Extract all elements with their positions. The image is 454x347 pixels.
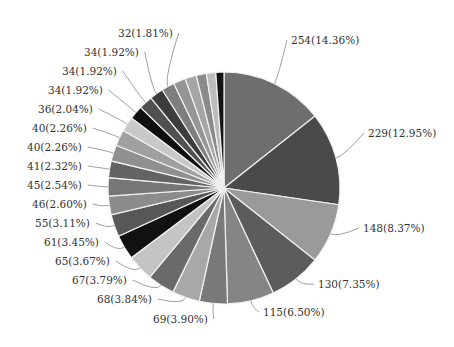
leader-line [275, 40, 287, 84]
leader-line [123, 71, 146, 103]
leader-line [88, 147, 114, 153]
leader-line [96, 223, 115, 227]
slice-label: 148(8.37%) [363, 222, 425, 234]
slice-label: 115(6.50%) [263, 306, 325, 318]
leader-line [88, 166, 110, 169]
leader-line [330, 228, 359, 235]
slice-label: 34(1.92%) [48, 84, 103, 96]
leader-line [158, 298, 186, 302]
leader-line [167, 33, 179, 86]
leader-line [296, 279, 314, 284]
leader-line [213, 304, 214, 319]
leader-line [145, 52, 157, 94]
leader-line [93, 204, 110, 206]
slice-label: 61(3.45%) [44, 236, 99, 248]
leader-line [93, 128, 120, 138]
slice-label: 45(2.54%) [27, 179, 82, 191]
leader-line [109, 90, 136, 113]
pie-slices [108, 72, 340, 304]
slice-label: 36(2.04%) [38, 103, 93, 115]
slice-label: 41(2.32%) [27, 160, 82, 172]
slice-label: 34(1.92%) [62, 65, 117, 77]
slice-label: 229(12.95%) [368, 127, 436, 139]
leader-line [251, 301, 259, 312]
slice-label: 46(2.60%) [32, 198, 87, 210]
slice-label: 130(7.35%) [318, 278, 380, 290]
slice-label: 69(3.90%) [153, 313, 208, 325]
slice-label: 67(3.79%) [72, 274, 127, 286]
slice-label: 40(2.26%) [32, 122, 87, 134]
slice-label: 55(3.11%) [35, 217, 90, 229]
leader-line [88, 185, 108, 187]
slice-label: 65(3.67%) [55, 255, 110, 267]
slice-label: 254(14.36%) [291, 34, 359, 46]
slice-label: 68(3.84%) [97, 293, 152, 305]
pie-chart: 254(14.36%)229(12.95%)148(8.37%)130(7.35… [0, 0, 454, 347]
leader-line [336, 133, 364, 158]
slice-label: 32(1.81%) [118, 27, 173, 39]
slice-label: 40(2.26%) [27, 141, 82, 153]
slice-label: 34(1.92%) [84, 46, 139, 58]
leader-line [99, 109, 127, 124]
